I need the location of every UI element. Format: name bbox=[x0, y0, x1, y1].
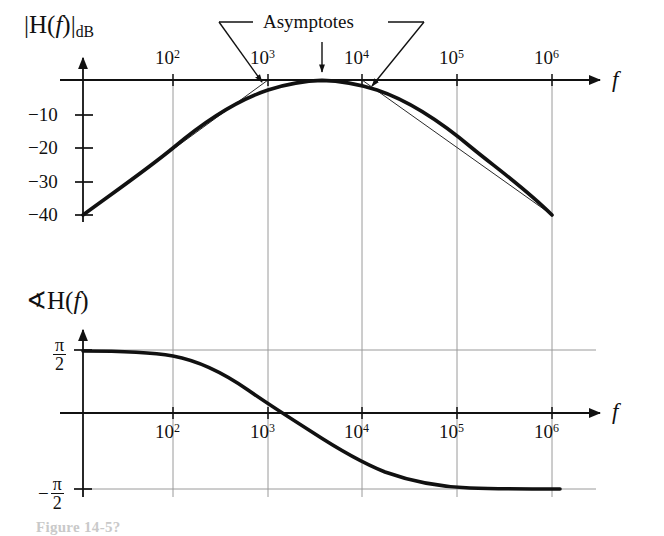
phase-xtick-label-1e2: 102 bbox=[155, 422, 180, 441]
magnitude-xtick-exp-1e3: 3 bbox=[269, 47, 275, 61]
magnitude-ytick-label--30: −30 bbox=[28, 172, 58, 191]
figure-caption-clipped: Figure 14-5? bbox=[36, 519, 121, 536]
magnitude-response-curve bbox=[83, 80, 552, 215]
magnitude-xtick-label-1e2: 102 bbox=[155, 48, 180, 67]
phase-axis-label-func: H( bbox=[47, 287, 73, 314]
phase-ytick-top-numerator: π bbox=[53, 336, 66, 355]
magnitude-axis-label-func: H( bbox=[29, 11, 55, 38]
phase-panel bbox=[60, 262, 600, 497]
magnitude-xtick-label-1e4: 104 bbox=[344, 48, 369, 67]
phase-ytick-label-minus-pi-over-2: − π 2 bbox=[38, 475, 64, 513]
magnitude-asymptote-lines bbox=[83, 80, 552, 215]
phase-ytick-bottom-sign: − bbox=[38, 484, 51, 503]
magnitude-xtick-label-1e6: 106 bbox=[534, 48, 559, 67]
magnitude-y-ticks bbox=[75, 115, 93, 215]
magnitude-xtick-label-1e5: 105 bbox=[439, 48, 464, 67]
phase-xtick-exp-1e5: 5 bbox=[458, 421, 464, 435]
phase-ytick-label-plus-pi-over-2: π 2 bbox=[53, 336, 66, 374]
magnitude-panel bbox=[60, 22, 600, 262]
magnitude-xtick-base-1e2: 10 bbox=[155, 47, 174, 68]
asymptotes-annotation-label: Asymptotes bbox=[263, 12, 354, 31]
magnitude-axis-label-close: ) bbox=[62, 11, 70, 38]
phase-ytick-bottom-numerator: π bbox=[51, 475, 64, 494]
phase-xtick-base-1e5: 10 bbox=[439, 421, 458, 442]
magnitude-xtick-exp-1e4: 4 bbox=[363, 47, 369, 61]
magnitude-xtick-base-1e5: 10 bbox=[439, 47, 458, 68]
angle-icon: ∢ bbox=[26, 287, 47, 314]
phase-xtick-exp-1e2: 2 bbox=[174, 421, 180, 435]
magnitude-xtick-exp-1e5: 5 bbox=[458, 47, 464, 61]
magnitude-xtick-base-1e3: 10 bbox=[250, 47, 269, 68]
phase-xtick-base-1e2: 10 bbox=[155, 421, 174, 442]
magnitude-axis-label: |H(f)|dB bbox=[24, 12, 94, 40]
magnitude-x-axis-variable: f bbox=[612, 68, 618, 91]
magnitude-axis-label-subscript: dB bbox=[76, 23, 94, 40]
phase-response-curve bbox=[83, 351, 560, 489]
leader-right-arrow bbox=[372, 22, 424, 86]
phase-xtick-exp-1e6: 6 bbox=[553, 421, 559, 435]
magnitude-ytick-label--20: −20 bbox=[28, 138, 58, 157]
phase-xtick-exp-1e4: 4 bbox=[363, 421, 369, 435]
magnitude-xtick-exp-1e2: 2 bbox=[174, 47, 180, 61]
magnitude-ytick-label--40: −40 bbox=[28, 205, 58, 224]
phase-xtick-label-1e5: 105 bbox=[439, 422, 464, 441]
phase-ytick-bottom-denominator: 2 bbox=[51, 494, 64, 512]
magnitude-xtick-base-1e4: 10 bbox=[344, 47, 363, 68]
magnitude-ytick-label--10: −10 bbox=[28, 105, 58, 124]
phase-xtick-label-1e4: 104 bbox=[344, 422, 369, 441]
phase-xtick-base-1e3: 10 bbox=[250, 421, 269, 442]
phase-xtick-label-1e3: 103 bbox=[250, 422, 275, 441]
phase-axis-label-close: ) bbox=[80, 287, 88, 314]
phase-xtick-base-1e6: 10 bbox=[534, 421, 553, 442]
magnitude-xtick-label-1e3: 103 bbox=[250, 48, 275, 67]
phase-ytick-top-denominator: 2 bbox=[53, 355, 66, 373]
magnitude-xtick-base-1e6: 10 bbox=[534, 47, 553, 68]
phase-xtick-exp-1e3: 3 bbox=[269, 421, 275, 435]
phase-xtick-base-1e4: 10 bbox=[344, 421, 363, 442]
phase-x-axis-variable: f bbox=[612, 400, 618, 423]
phase-xtick-label-1e6: 106 bbox=[534, 422, 559, 441]
magnitude-xtick-exp-1e6: 6 bbox=[553, 47, 559, 61]
phase-axis-label: ∢H(f) bbox=[26, 288, 89, 313]
